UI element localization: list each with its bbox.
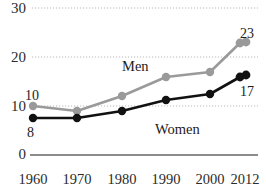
y-tick-30: 30 — [0, 1, 26, 16]
x-tick-2012: 2012 — [222, 172, 266, 187]
x-tick-1960: 1960 — [10, 172, 56, 187]
value-label-women-end: 17 — [240, 85, 254, 99]
data-point-women-2012 — [242, 71, 251, 80]
data-point-men-2000 — [206, 68, 214, 76]
data-point-women-1970 — [73, 114, 81, 122]
data-point-women-1980 — [118, 107, 126, 115]
series-line-women — [33, 75, 246, 118]
series-label-men: Men — [122, 59, 149, 74]
x-tick-1990: 1990 — [143, 172, 189, 187]
series-line-men — [33, 42, 246, 111]
data-point-men-1980 — [118, 92, 126, 100]
data-point-women-1990 — [162, 96, 170, 104]
data-point-men-1960 — [29, 102, 37, 110]
data-point-men-1990 — [162, 73, 170, 81]
y-tick-20: 20 — [0, 50, 26, 65]
value-label-men-end: 23 — [240, 27, 254, 41]
value-label-women-start: 8 — [27, 126, 34, 140]
line-chart: 30 20 10 0 1960 1970 1980 1990 2000 2012… — [0, 0, 266, 191]
x-tick-1980: 1980 — [99, 172, 145, 187]
y-tick-10: 10 — [0, 99, 26, 114]
data-point-women-1960 — [29, 114, 37, 122]
series-label-women: Women — [155, 122, 200, 137]
chart-plot-area — [0, 0, 266, 191]
y-tick-0: 0 — [0, 147, 26, 162]
series-markers-women — [29, 71, 251, 123]
x-tick-1970: 1970 — [54, 172, 100, 187]
value-label-men-start: 10 — [25, 89, 39, 103]
series-markers-men — [29, 38, 251, 116]
data-point-women-2000 — [206, 90, 214, 98]
